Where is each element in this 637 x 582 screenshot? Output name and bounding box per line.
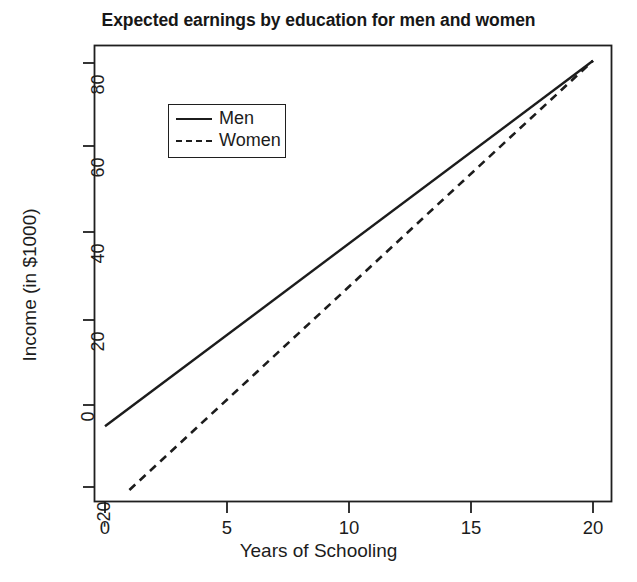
chart-legend: Men Women — [168, 104, 286, 158]
y-tick-label-0: 0 — [78, 412, 99, 422]
y-tick-label-80: 80 — [88, 75, 109, 95]
legend-label-men: Men — [219, 108, 254, 129]
legend-item-women: Women — [169, 129, 285, 153]
x-axis-title: Years of Schooling — [0, 540, 637, 562]
y-axis-title: Income (in $1000) — [19, 135, 41, 435]
legend-line-sample-solid-icon — [176, 118, 212, 120]
chart-figure: Expected earnings by education for men a… — [0, 0, 637, 582]
legend-line-sample-dashed-icon — [176, 140, 212, 142]
y-tick-label-60: 60 — [88, 158, 109, 178]
y-tick-label-20: 20 — [88, 332, 109, 352]
y-tick-marks — [83, 63, 95, 487]
x-tick-label-20: 20 — [583, 517, 604, 539]
legend-label-women: Women — [219, 130, 281, 151]
x-tick-label-15: 15 — [461, 517, 482, 539]
x-tick-label-5: 5 — [222, 517, 232, 539]
legend-item-men: Men — [169, 107, 285, 131]
x-tick-label-0: 0 — [100, 517, 110, 539]
x-tick-label-10: 10 — [339, 517, 360, 539]
x-tick-marks — [105, 502, 593, 514]
y-tick-label-40: 40 — [88, 244, 109, 264]
